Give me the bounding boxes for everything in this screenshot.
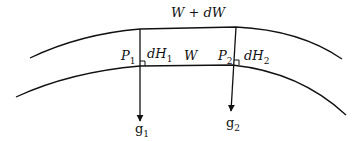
gravity-g2-label: g2 <box>226 115 240 133</box>
dh2-label: dH2 <box>244 48 269 66</box>
equipotential-diagram: W + dW W P1 dH1 P2 dH2 g1 g2 <box>0 0 360 141</box>
diagram-canvas: W + dW W P1 dH1 P2 dH2 g1 g2 <box>0 0 360 141</box>
lower-surface-label: W <box>184 48 199 63</box>
gravity-g1-label: g1 <box>135 121 149 139</box>
gravity-vector-2 <box>231 27 236 111</box>
upper-surface-label: W + dW <box>171 5 227 20</box>
lower-equipotential-curve <box>16 65 346 115</box>
point-p2-label: P2 <box>217 48 232 66</box>
dh1-label: dH1 <box>147 46 172 64</box>
right-angle-marker-2 <box>234 60 239 65</box>
point-p1-label: P1 <box>120 48 135 66</box>
right-angle-marker-1 <box>140 61 145 66</box>
